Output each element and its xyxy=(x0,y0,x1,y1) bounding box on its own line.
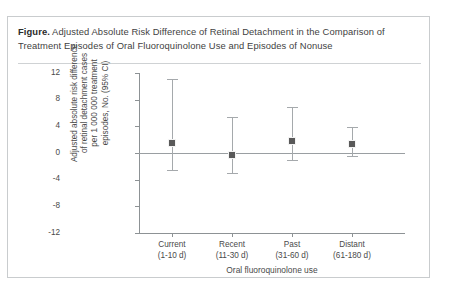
ci-line xyxy=(292,107,293,160)
estimate-marker xyxy=(228,151,236,159)
y-axis-title-line-3: per 1 000 000 treatment xyxy=(90,28,100,178)
ci-cap-upper xyxy=(167,79,178,80)
x-tick-current xyxy=(172,233,173,237)
y-axis-title-line-1: Adjusted absolute risk difference xyxy=(70,28,80,178)
y-axis-title: Adjusted absolute risk difference of ret… xyxy=(70,28,114,178)
y-tick-label: 12 xyxy=(51,68,60,77)
y-tick-label: -12 xyxy=(48,228,60,237)
x-category-range: (61-180 d) xyxy=(309,251,395,262)
estimate-marker xyxy=(348,140,356,148)
ci-cap-upper xyxy=(227,117,238,118)
x-tick-recent xyxy=(232,233,233,237)
y-tick-label: 8 xyxy=(55,94,60,103)
figure-container: Figure. Adjusted Absolute Risk Differenc… xyxy=(7,16,430,278)
x-axis-title: Oral fluoroquinolone use xyxy=(139,265,405,275)
y-tick-label: 0 xyxy=(55,148,60,157)
ci-line xyxy=(232,117,233,173)
estimate-marker xyxy=(288,137,296,145)
x-category-name: Distant xyxy=(309,240,395,251)
x-axis-line xyxy=(139,233,405,234)
ci-cap-lower xyxy=(167,170,178,171)
ci-cap-lower xyxy=(347,156,358,157)
ci-cap-upper xyxy=(347,127,358,128)
x-tick-past xyxy=(292,233,293,237)
ci-cap-lower xyxy=(287,160,298,161)
ci-cap-lower xyxy=(227,173,238,174)
y-axis-title-line-4: episodes, No. (95% CI) xyxy=(101,28,111,178)
estimate-marker xyxy=(168,139,176,147)
y-tick-label: 4 xyxy=(55,121,60,130)
zero-reference-line xyxy=(139,153,405,154)
figure-caption-label: Figure. xyxy=(18,26,50,37)
ci-cap-upper xyxy=(287,107,298,108)
y-tick-label: -4 xyxy=(53,174,60,183)
ci-line xyxy=(172,79,173,170)
chart-plot-area: 12 8 4 0 -4 -8 -12 xyxy=(63,73,405,243)
y-axis-title-line-2: of retinal detachment cases xyxy=(80,28,90,178)
y-tick-label: -8 xyxy=(53,201,60,210)
x-tick-distant xyxy=(352,233,353,237)
x-category-distant: Distant (61-180 d) xyxy=(309,240,395,261)
